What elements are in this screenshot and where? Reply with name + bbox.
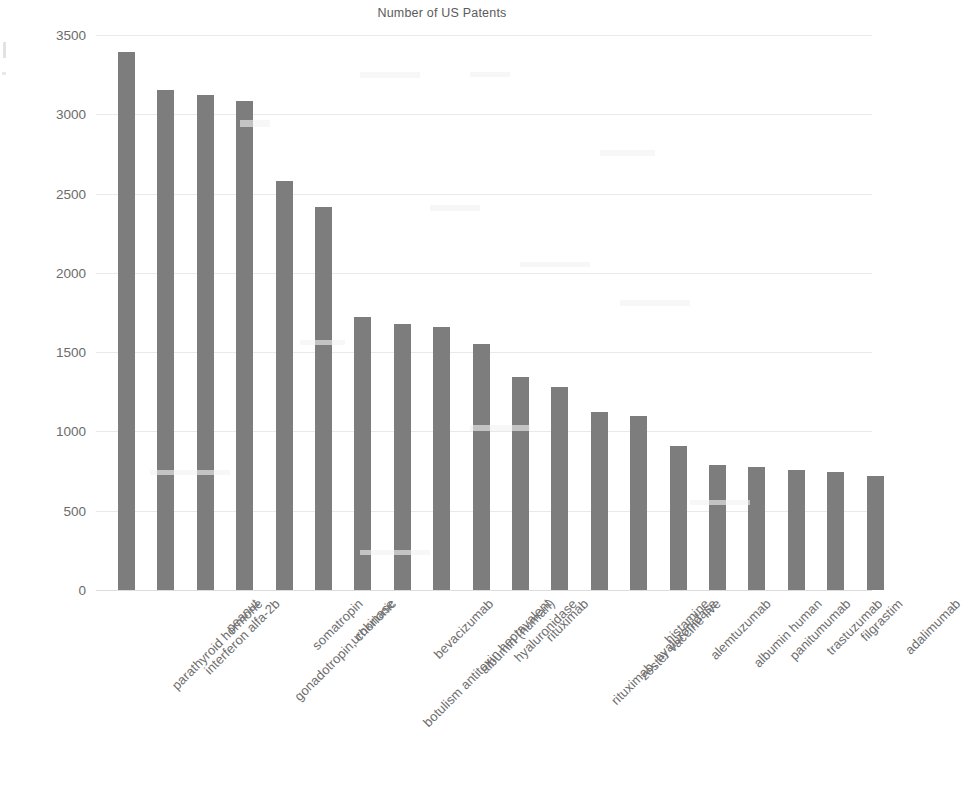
- bar: [354, 317, 371, 590]
- y-axis-tick-label: 3500: [26, 28, 86, 43]
- bar: [315, 207, 332, 590]
- x-axis-tick-label: adalimumab: [902, 596, 963, 657]
- y-axis-tick-label: 3000: [26, 107, 86, 122]
- y-axis-tick-label: 1000: [26, 424, 86, 439]
- y-axis-tick-label: 2000: [26, 265, 86, 280]
- bar: [630, 416, 647, 590]
- chart-title: Number of US Patents: [0, 6, 884, 20]
- bar: [827, 472, 844, 590]
- bar: [394, 324, 411, 590]
- bar: [236, 101, 253, 590]
- bar: [788, 470, 805, 590]
- bar: [433, 327, 450, 590]
- bar: [157, 90, 174, 590]
- y-axis-tick-label: 500: [26, 503, 86, 518]
- bar-series: [96, 35, 872, 590]
- bar: [197, 95, 214, 590]
- y-axis-tick-label: 2500: [26, 186, 86, 201]
- gridline: [96, 590, 872, 591]
- plot-area: [96, 35, 872, 590]
- bar: [512, 377, 529, 590]
- bar: [748, 467, 765, 590]
- scan-artifact: [3, 42, 6, 58]
- bar: [551, 387, 568, 590]
- bar: [276, 181, 293, 590]
- bar: [118, 52, 135, 590]
- bar: [473, 344, 490, 590]
- y-axis-tick-label: 0: [26, 583, 86, 598]
- bar: [670, 446, 687, 590]
- x-axis: parathyroid hormoneinterferon alfa-2bpea…: [96, 592, 886, 790]
- y-axis-tick-label: 1500: [26, 345, 86, 360]
- bar: [867, 476, 884, 590]
- y-axis: 3500300025002000150010005000: [22, 35, 86, 590]
- bar: [709, 465, 726, 590]
- x-axis-tick-label: zoster vaccine live: [637, 596, 724, 683]
- bar: [591, 412, 608, 590]
- scan-artifact-secondary: [2, 72, 6, 75]
